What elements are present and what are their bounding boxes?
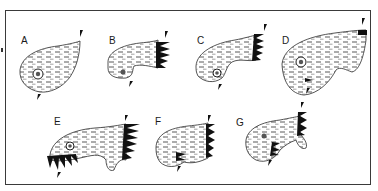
arrow-marker-icon <box>57 172 61 178</box>
arrow-marker-icon <box>301 102 304 108</box>
arrow-marker-icon <box>362 18 365 25</box>
arrow-marker-icon <box>177 166 181 172</box>
panel-f-cell <box>156 115 215 172</box>
panel-d-cell <box>282 18 367 95</box>
arrow-marker-icon <box>80 30 83 37</box>
panel-a-cell <box>20 30 83 100</box>
arrow-marker-icon <box>37 94 41 100</box>
arrow-marker-icon <box>129 81 133 87</box>
panel-c-cell <box>196 24 267 90</box>
panel-g-cell <box>246 102 307 166</box>
arrow-marker-icon <box>268 160 272 166</box>
figure-artwork <box>0 0 378 191</box>
arrow-marker-icon <box>218 84 222 90</box>
arrow-marker-icon <box>208 115 211 122</box>
arrow-marker-icon <box>125 115 128 121</box>
panel-b-cell <box>108 31 170 87</box>
panel-e-cell <box>47 115 140 178</box>
arrow-marker-icon <box>165 31 168 38</box>
arrow-marker-icon <box>264 24 267 31</box>
